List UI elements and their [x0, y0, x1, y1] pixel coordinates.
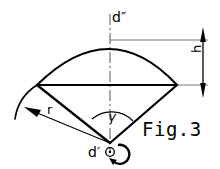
center-dot — [109, 151, 111, 153]
figure-caption: Fig.3 — [142, 120, 202, 139]
dimension-arrow-up — [200, 27, 206, 42]
label-diameter-bottom: d′ — [88, 145, 100, 159]
radius-arrowhead — [24, 107, 41, 117]
label-radius: r — [47, 103, 52, 116]
segment-arc — [37, 49, 177, 85]
label-sector-angle: γ — [108, 110, 116, 123]
drawing-canvas — [0, 0, 220, 169]
technical-drawing-figure: d″ h r γ d′ Fig.3 — [0, 0, 220, 169]
label-diameter-top: d″ — [112, 10, 126, 24]
label-segment-height: h — [190, 45, 203, 53]
dimension-arrow-down — [200, 83, 206, 98]
